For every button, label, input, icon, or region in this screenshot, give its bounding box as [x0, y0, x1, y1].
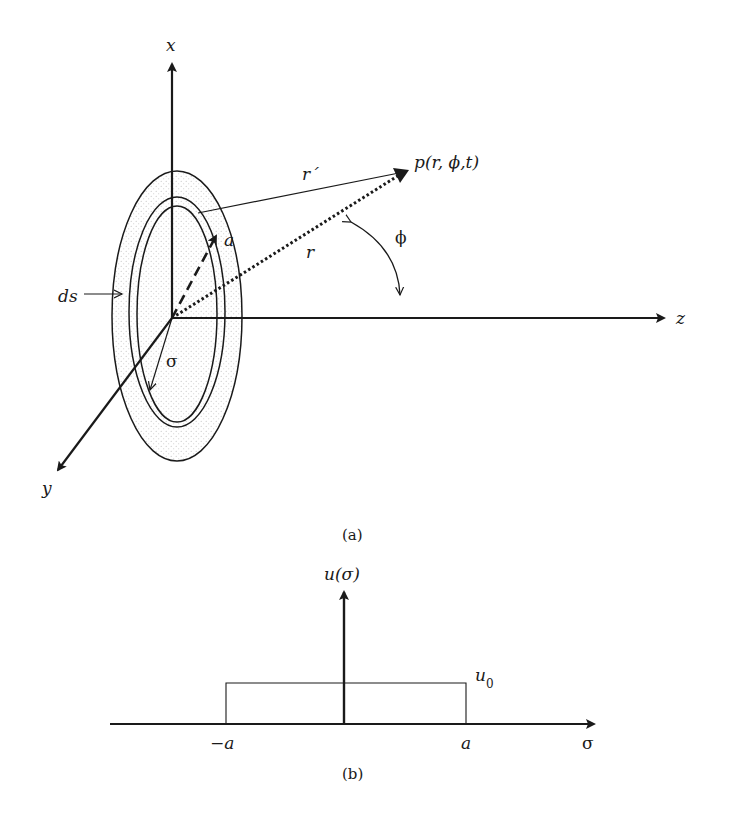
- r-prime-label: r´: [302, 164, 319, 184]
- ds-label: ds: [58, 286, 78, 306]
- x-axis-label: x: [166, 35, 176, 55]
- tick-minus-a: −a: [210, 733, 234, 753]
- phi-arc: [351, 222, 400, 295]
- r-arrowhead: [393, 168, 409, 183]
- sigma-axis-label: σ: [582, 733, 594, 753]
- u-axis-label: u(σ): [324, 564, 360, 584]
- phi-label: ϕ: [395, 227, 407, 247]
- caption-b: (b): [342, 765, 363, 783]
- y-axis-label: y: [41, 478, 52, 498]
- a-label: a: [224, 230, 234, 250]
- u0-label: u0: [475, 665, 494, 691]
- rect-pulse: [226, 683, 466, 724]
- tick-a: a: [461, 733, 471, 753]
- caption-a: (a): [342, 526, 363, 544]
- z-axis-label: z: [675, 308, 686, 328]
- figure-b: σ u(σ) u0 −a a (b): [110, 564, 594, 783]
- point-label: p(r, ϕ,t): [414, 152, 479, 172]
- diagram-canvas: x z y r´ r p(r, ϕ,t) a ϕ σ ds (a) σ: [0, 0, 743, 821]
- sigma-label: σ: [166, 351, 178, 371]
- r-label: r: [306, 242, 315, 262]
- figure-a: x z y r´ r p(r, ϕ,t) a ϕ σ ds (a): [41, 35, 686, 544]
